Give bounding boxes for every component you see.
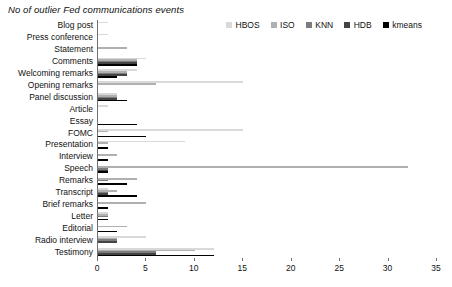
bar-kmeans [98,64,137,66]
x-axis-tick [291,258,292,261]
bar-kmeans [98,159,108,161]
bar-kmeans [98,171,108,173]
chart-row: Statement [97,44,438,56]
bar-iso [98,202,146,204]
bar-iso [98,83,156,85]
y-axis-category-label: Essay [1,117,93,126]
plot-area: 05101520253035Blog postPress conferenceS… [97,20,438,258]
bar-hbos [98,129,243,131]
bar-hbos [98,105,108,107]
chart-container: No of outlier Fed communications events … [0,0,452,287]
chart-row: FOMC [97,127,438,139]
bar-hbos [98,34,108,36]
x-axis-tick-label: 30 [383,263,392,273]
bar-iso [98,226,127,228]
bar-kmeans [98,76,117,78]
x-axis-tick [242,258,243,261]
x-axis-tick-label: 25 [334,263,343,273]
chart-row: Article [97,103,438,115]
bar-iso [98,154,117,156]
y-axis-category-label: Opening remarks [1,81,93,90]
chart-row: Editorial [97,222,438,234]
bar-kmeans [98,255,214,257]
chart-row: Presentation [97,139,438,151]
bar-iso [98,47,127,49]
chart-row: Speech [97,163,438,175]
bar-kmeans [98,147,108,149]
x-axis-tick [97,258,98,261]
x-axis-tick [436,258,437,261]
y-axis-category-label: Blog post [1,21,93,30]
bar-knn [98,216,108,218]
bar-kmeans [98,219,108,221]
bar-kmeans [98,124,137,126]
chart-row: Testimony [97,246,438,258]
x-axis-tick [145,258,146,261]
bar-kmeans [98,100,127,102]
bar-hbos [98,22,108,24]
y-axis-category-label: Panel discussion [1,93,93,102]
chart-row: Welcoming remarks [97,68,438,80]
y-axis-category-label: Comments [1,57,93,66]
chart-row: Transcript [97,187,438,199]
y-axis-category-label: Testimony [1,248,93,257]
chart-row: Essay [97,115,438,127]
chart-row: Comments [97,56,438,68]
bar-kmeans [98,207,108,209]
y-axis-category-label: Remarks [1,176,93,185]
y-axis-category-label: Interview [1,152,93,161]
chart-row: Radio interview [97,234,438,246]
x-axis-tick-label: 35 [431,263,440,273]
x-axis-tick [194,258,195,261]
y-axis-category-label: Presentation [1,140,93,149]
chart-row: Letter [97,210,438,222]
bar-kmeans [98,136,146,138]
chart-row: Brief remarks [97,199,438,211]
y-axis-category-label: FOMC [1,129,93,138]
chart-title: No of outlier Fed communications events [8,4,184,15]
x-axis-tick [339,258,340,261]
chart-row: Opening remarks [97,80,438,92]
chart-row: Press conference [97,32,438,44]
x-axis-tick-label: 10 [189,263,198,273]
y-axis-category-label: Letter [1,212,93,221]
x-axis-tick-label: 0 [95,263,100,273]
bar-hbos [98,141,185,143]
y-axis-category-label: Radio interview [1,236,93,245]
bar-hdb [98,241,117,243]
y-axis-category-label: Transcript [1,188,93,197]
bar-iso [98,166,408,168]
bar-kmeans [98,183,127,185]
y-axis-category-label: Brief remarks [1,200,93,209]
bar-knn [98,180,108,182]
bar-kmeans [98,231,117,233]
x-axis-tick-label: 5 [143,263,148,273]
chart-row: Interview [97,151,438,163]
bar-iso [98,142,108,144]
y-axis-category-label: Statement [1,45,93,54]
y-axis-category-label: Speech [1,164,93,173]
chart-row: Blog post [97,20,438,32]
chart-row: Remarks [97,175,438,187]
y-axis-category-label: Article [1,105,93,114]
x-axis-tick-label: 15 [238,263,247,273]
x-axis-tick [388,258,389,261]
bar-kmeans [98,195,137,197]
y-axis-category-label: Press conference [1,33,93,42]
y-axis-category-label: Welcoming remarks [1,69,93,78]
x-axis-tick-label: 20 [286,263,295,273]
y-axis-category-label: Editorial [1,224,93,233]
chart-row: Panel discussion [97,91,438,103]
bar-iso [98,131,108,133]
